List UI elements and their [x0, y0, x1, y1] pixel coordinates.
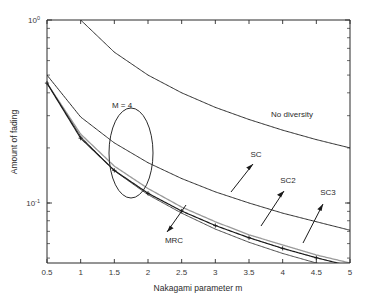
- x-tick-label-2: 1.5: [109, 268, 121, 277]
- y-axis-tick-labels: 10010-1: [26, 15, 40, 208]
- annotation-m-equals-4: M = 4: [112, 101, 133, 110]
- x-tick-label-3: 2: [146, 268, 151, 277]
- x-tick-label-8: 4.5: [311, 268, 323, 277]
- x-tick-label-1: 1: [78, 268, 83, 277]
- figure-container: 0.511.522.533.544.55 10010-1 M = 4 No di…: [0, 0, 371, 304]
- x-tick-label-9: 5: [348, 268, 353, 277]
- x-tick-label-0: 0.5: [41, 268, 53, 277]
- y-tick-label-0: 100: [28, 15, 40, 25]
- annotation-sc: SC: [250, 150, 261, 159]
- chart-canvas: 0.511.522.533.544.55 10010-1 M = 4 No di…: [0, 0, 371, 304]
- y-axis-title: Amount of fading: [9, 110, 19, 175]
- x-axis-title: Nakagami parameter m: [154, 283, 243, 293]
- x-axis-tick-labels: 0.511.522.533.544.55: [41, 268, 352, 277]
- annotation-no-diversity: No diversity: [271, 110, 313, 119]
- annotation-mrc: MRC: [165, 236, 183, 245]
- annotation-sc3: SC3: [320, 188, 336, 197]
- x-tick-label-4: 2.5: [176, 268, 188, 277]
- y-tick-label-1: 10-1: [26, 198, 40, 208]
- annotation-sc2: SC2: [280, 176, 296, 185]
- plot-area-background: [47, 20, 350, 263]
- x-tick-label-5: 3: [213, 268, 218, 277]
- x-tick-label-6: 3.5: [243, 268, 255, 277]
- x-tick-label-7: 4: [280, 268, 285, 277]
